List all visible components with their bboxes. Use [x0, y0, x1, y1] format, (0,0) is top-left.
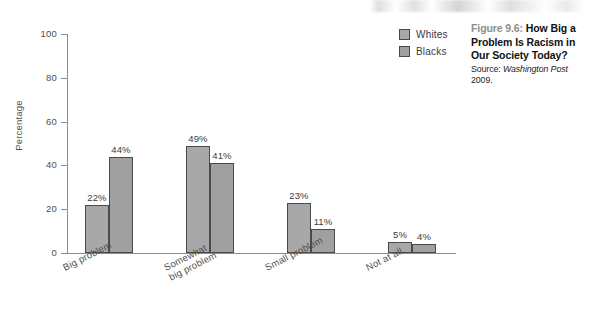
figure-caption: Figure 9.6: How Big a Problem Is Racism …: [471, 22, 591, 86]
bar-value-label: 49%: [178, 133, 218, 144]
y-axis-tick: [61, 253, 67, 254]
caption-source: Source: Washington Post 2009.: [471, 64, 591, 86]
caption-source-suffix: 2009.: [471, 75, 493, 85]
legend-swatch-blacks: [399, 46, 410, 57]
caption-source-publication: Washington Post: [503, 64, 568, 74]
bar-blacks-1: [210, 163, 234, 253]
legend-label-blacks: Blacks: [416, 46, 447, 57]
y-axis-tick: [61, 209, 67, 210]
y-axis-tick: [61, 122, 67, 123]
y-axis-tick: [61, 165, 67, 166]
y-axis-tick-label: 20: [31, 203, 57, 214]
chart-legend: Whites Blacks: [399, 26, 469, 60]
bar-value-label: 23%: [279, 190, 319, 201]
y-axis-tick-label: 60: [31, 116, 57, 127]
bar-value-label: 11%: [303, 216, 343, 227]
y-axis-tick-label: 100: [31, 28, 57, 39]
legend-item-whites: Whites: [399, 26, 469, 43]
y-axis-tick: [61, 78, 67, 79]
bar-value-label: 4%: [404, 231, 444, 242]
caption-source-prefix: Source:: [471, 64, 503, 74]
figure-container: Percentage 020406080100 22%44%49%41%23%1…: [0, 0, 591, 326]
y-axis-line: [67, 34, 68, 254]
y-axis-tick: [61, 34, 67, 35]
y-axis-tick-label: 40: [31, 159, 57, 170]
legend-label-whites: Whites: [416, 29, 448, 40]
bar-value-label: 44%: [101, 144, 141, 155]
y-axis-title: Percentage: [13, 91, 24, 161]
y-axis-tick-label: 80: [31, 72, 57, 83]
bar-value-label: 41%: [202, 150, 242, 161]
legend-swatch-whites: [399, 29, 410, 40]
legend-item-blacks: Blacks: [399, 43, 469, 60]
bar-blacks-3: [412, 244, 436, 253]
caption-figure-number: Figure 9.6:: [471, 22, 523, 34]
caption-title-line: Figure 9.6: How Big a Problem Is Racism …: [471, 22, 591, 63]
bar-blacks-0: [109, 157, 133, 253]
x-axis-category-label: Not at all: [364, 245, 404, 273]
bar-whites-1: [186, 146, 210, 253]
y-axis-tick-label: 0: [31, 247, 57, 258]
